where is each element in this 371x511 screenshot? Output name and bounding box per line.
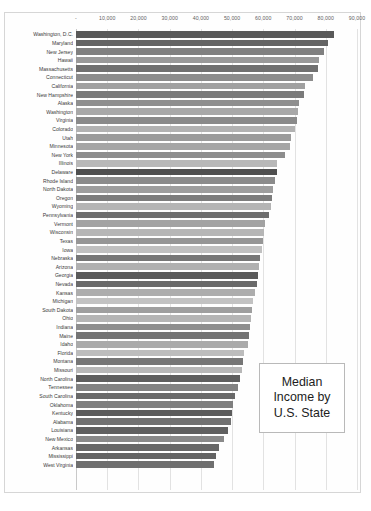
bar[interactable] — [76, 427, 228, 434]
bar[interactable] — [76, 358, 243, 365]
bar-row[interactable]: Virginia — [5, 116, 362, 125]
bar[interactable] — [76, 143, 290, 150]
bar[interactable] — [76, 272, 258, 279]
bar-row[interactable]: Texas — [5, 237, 362, 246]
bar[interactable] — [76, 298, 253, 305]
bar[interactable] — [76, 177, 275, 184]
bar[interactable] — [76, 289, 255, 296]
bar[interactable] — [76, 83, 305, 90]
bar-row[interactable]: North Dakota — [5, 185, 362, 194]
bar-row[interactable]: Minnesota — [5, 142, 362, 151]
bar[interactable] — [76, 263, 259, 270]
bar[interactable] — [76, 401, 233, 408]
bar-row[interactable]: South Dakota — [5, 306, 362, 315]
bar[interactable] — [76, 48, 324, 55]
bar-row[interactable]: Colorado — [5, 125, 362, 134]
bar-row[interactable]: Nebraska — [5, 254, 362, 263]
bar-track — [76, 74, 362, 81]
bar[interactable] — [76, 367, 242, 374]
bar-row[interactable]: Oregon — [5, 194, 362, 203]
bar[interactable] — [76, 255, 260, 262]
bar-category-label: Kansas — [5, 290, 73, 296]
bar[interactable] — [76, 40, 328, 47]
bar[interactable] — [76, 100, 299, 107]
bar-row[interactable]: Illinois — [5, 159, 362, 168]
bar-row[interactable]: West Virginia — [5, 460, 362, 469]
bar-row[interactable]: Washington — [5, 107, 362, 116]
bar[interactable] — [76, 418, 231, 425]
bar-row[interactable]: Connecticut — [5, 73, 362, 82]
bar-row[interactable]: Georgia — [5, 271, 362, 280]
bar-row[interactable]: New Hampshire — [5, 90, 362, 99]
bar[interactable] — [76, 307, 252, 314]
bar[interactable] — [76, 229, 264, 236]
bar[interactable] — [76, 375, 240, 382]
bar-track — [76, 134, 362, 141]
bar[interactable] — [76, 160, 277, 167]
bar-row[interactable]: California — [5, 82, 362, 91]
bar-row[interactable]: Arkansas — [5, 443, 362, 452]
bar-row[interactable]: New York — [5, 151, 362, 160]
bar[interactable] — [76, 57, 319, 64]
bar-row[interactable]: Delaware — [5, 168, 362, 177]
bar-row[interactable]: Iowa — [5, 245, 362, 254]
bar-category-label: Oregon — [5, 195, 73, 201]
bar[interactable] — [76, 324, 250, 331]
bar-row[interactable]: Michigan — [5, 297, 362, 306]
bar[interactable] — [76, 126, 295, 133]
bar[interactable] — [76, 453, 216, 460]
bar[interactable] — [76, 108, 298, 115]
bar-row[interactable]: Rhode Island — [5, 176, 362, 185]
bar[interactable] — [76, 220, 265, 227]
bar[interactable] — [76, 315, 251, 322]
bar[interactable] — [76, 393, 235, 400]
bar-row[interactable]: Maine — [5, 331, 362, 340]
bar-row[interactable]: Indiana — [5, 323, 362, 332]
bar-row[interactable]: Pennsylvania — [5, 211, 362, 220]
bar[interactable] — [76, 461, 214, 468]
bar[interactable] — [76, 169, 277, 176]
bar[interactable] — [76, 91, 304, 98]
bar-row[interactable]: Vermont — [5, 219, 362, 228]
bar-row[interactable]: Nevada — [5, 280, 362, 289]
bar[interactable] — [76, 281, 257, 288]
bar[interactable] — [76, 410, 232, 417]
bar[interactable] — [76, 186, 273, 193]
bar[interactable] — [76, 31, 334, 38]
bar[interactable] — [76, 436, 224, 443]
bar[interactable] — [76, 212, 269, 219]
bar[interactable] — [76, 117, 297, 124]
bar[interactable] — [76, 134, 291, 141]
bar-row[interactable]: New Mexico — [5, 435, 362, 444]
bar-row[interactable]: Hawaii — [5, 56, 362, 65]
bar-row[interactable]: Wyoming — [5, 202, 362, 211]
bar-category-label: Alaska — [5, 100, 73, 106]
bar[interactable] — [76, 203, 271, 210]
bar[interactable] — [76, 332, 249, 339]
bar-category-label: Florida — [5, 350, 73, 356]
bar[interactable] — [76, 65, 318, 72]
bar-row[interactable]: Idaho — [5, 340, 362, 349]
bar-row[interactable]: Wisconsin — [5, 228, 362, 237]
bar-row[interactable]: Washington, D.C. — [5, 30, 362, 39]
bar[interactable] — [76, 350, 244, 357]
bar-row[interactable]: Arizona — [5, 262, 362, 271]
bar-row[interactable]: Kansas — [5, 288, 362, 297]
bar-row[interactable]: Massachusetts — [5, 64, 362, 73]
bar-row[interactable]: Mississippi — [5, 452, 362, 461]
bar[interactable] — [76, 152, 285, 159]
bar[interactable] — [76, 195, 272, 202]
bar-category-label: Delaware — [5, 169, 73, 175]
bar[interactable] — [76, 74, 313, 81]
bar-row[interactable]: Ohio — [5, 314, 362, 323]
bar-row[interactable]: New Jersey — [5, 47, 362, 56]
bar[interactable] — [76, 341, 248, 348]
bar-row[interactable]: Florida — [5, 349, 362, 358]
bar[interactable] — [76, 238, 263, 245]
bar-row[interactable]: Alaska — [5, 99, 362, 108]
bar[interactable] — [76, 384, 238, 391]
bar[interactable] — [76, 246, 262, 253]
bar[interactable] — [76, 444, 219, 451]
bar-row[interactable]: Utah — [5, 133, 362, 142]
bar-row[interactable]: Maryland — [5, 39, 362, 48]
